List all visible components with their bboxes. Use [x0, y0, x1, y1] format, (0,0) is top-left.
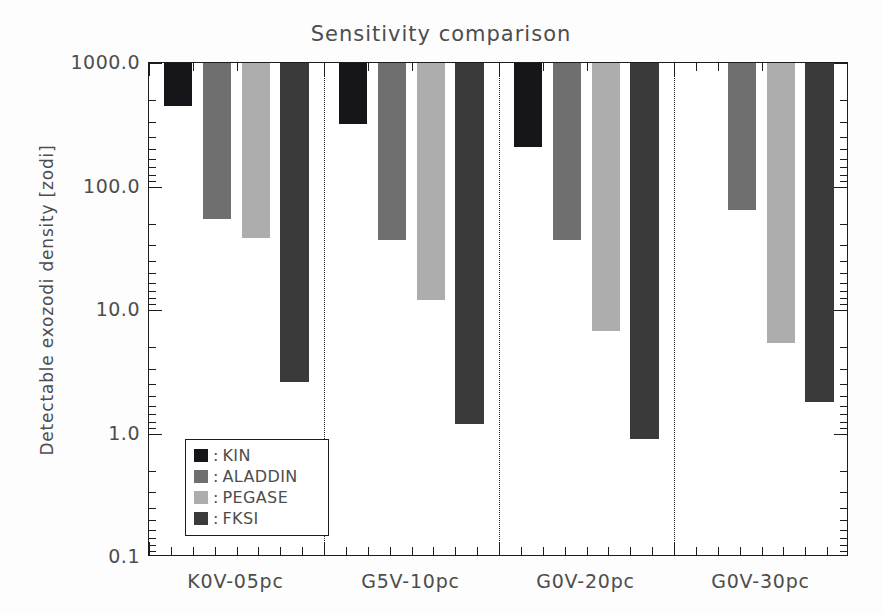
legend-separator: :	[213, 448, 218, 464]
x-axis-tick-minor	[827, 547, 828, 555]
x-axis-tick-minor	[762, 63, 763, 71]
y-axis-tick-minor	[840, 347, 847, 348]
bar	[455, 63, 484, 424]
x-axis-tick-minor	[215, 547, 216, 555]
y-axis-tick-minor	[149, 545, 156, 546]
y-axis-tick-minor	[149, 384, 156, 385]
bar	[805, 63, 834, 402]
x-axis-tick-minor	[521, 547, 522, 555]
x-axis-tick-minor	[805, 547, 806, 555]
bar	[203, 63, 232, 219]
y-axis-tick-minor	[840, 224, 847, 225]
y-axis-tick-minor	[149, 181, 156, 182]
x-axis-tick-minor	[193, 63, 194, 71]
y-axis-tick-minor	[149, 149, 156, 150]
x-axis-tick-major	[324, 542, 325, 555]
x-axis-tick-major	[674, 63, 675, 76]
y-axis-tick-minor	[149, 551, 156, 552]
y-axis-tick-minor	[149, 422, 156, 423]
x-axis-tick-minor	[587, 63, 588, 71]
y-axis-tick-minor	[840, 137, 847, 138]
bar	[592, 63, 621, 331]
x-axis-tick-minor	[543, 63, 544, 71]
x-axis-tick-minor	[696, 547, 697, 555]
y-axis-tick-minor	[149, 304, 156, 305]
y-axis-tick-label: 1.0	[108, 422, 140, 444]
y-axis-tick-minor	[149, 414, 156, 415]
bar	[630, 63, 659, 439]
y-axis-tick-minor	[149, 261, 156, 262]
y-axis-tick-minor	[149, 406, 156, 407]
y-axis-tick-minor	[149, 347, 156, 348]
legend-item: :ALADDIN	[194, 466, 321, 487]
bar	[514, 63, 543, 147]
bar	[553, 63, 582, 240]
y-axis-tick-minor	[840, 122, 847, 123]
x-axis-tick-major	[324, 63, 325, 76]
y-axis-tick-minor	[840, 100, 847, 101]
y-axis-tick-minor	[149, 245, 156, 246]
x-axis-tick-minor	[193, 547, 194, 555]
legend-label: FKSI	[222, 511, 258, 527]
y-axis-tick-major	[834, 63, 847, 64]
y-axis-tick-minor	[840, 298, 847, 299]
y-axis-tick-minor	[840, 545, 847, 546]
y-axis-tick-minor	[149, 396, 156, 397]
bar	[280, 63, 309, 382]
y-axis-tick-minor	[840, 181, 847, 182]
y-axis-tick-minor	[840, 167, 847, 168]
x-axis-tick-minor	[171, 547, 172, 555]
y-axis-tick-minor	[840, 304, 847, 305]
x-axis-tick-major	[499, 63, 500, 76]
x-axis-tick-minor	[412, 63, 413, 71]
legend-label: KIN	[222, 448, 250, 464]
x-axis-tick-minor	[565, 547, 566, 555]
legend-swatch-icon	[194, 491, 208, 504]
y-axis-tick-minor	[149, 538, 156, 539]
legend-swatch-icon	[194, 449, 208, 462]
x-axis-tick-minor	[237, 547, 238, 555]
y-axis-tick-minor	[840, 291, 847, 292]
y-axis-tick-minor	[840, 369, 847, 370]
y-axis-tick-minor	[840, 245, 847, 246]
y-axis-tick-minor	[840, 283, 847, 284]
x-axis-tick-minor	[652, 547, 653, 555]
y-axis-tick-minor	[840, 538, 847, 539]
bar	[417, 63, 446, 300]
y-axis-tick-minor	[840, 159, 847, 160]
y-axis-tick-minor	[840, 175, 847, 176]
x-axis-tick-minor	[543, 547, 544, 555]
y-axis-tick-minor	[840, 149, 847, 150]
y-axis-tick-minor	[840, 428, 847, 429]
x-axis-tick-minor	[630, 547, 631, 555]
x-axis-tick-minor	[762, 547, 763, 555]
bar	[242, 63, 271, 238]
y-axis-tick-major	[834, 187, 847, 188]
group-separator	[499, 63, 500, 555]
chart-legend: :KIN:ALADDIN:PEGASE:FKSI	[185, 439, 329, 536]
x-axis-tick-label: G0V-20pc	[536, 570, 635, 592]
x-axis-tick-minor	[302, 547, 303, 555]
y-axis-tick-label: 1000.0	[71, 51, 140, 73]
group-separator	[674, 63, 675, 555]
x-axis-tick-minor	[368, 63, 369, 71]
y-axis-tick-minor	[149, 167, 156, 168]
x-axis-tick-label: G0V-30pc	[711, 570, 810, 592]
y-axis-tick-minor	[149, 122, 156, 123]
x-axis-tick-minor	[608, 547, 609, 555]
y-axis-tick-minor	[149, 530, 156, 531]
y-axis-tick-minor	[149, 137, 156, 138]
bar	[339, 63, 368, 124]
y-axis-tick-minor	[840, 492, 847, 493]
legend-separator: :	[213, 511, 218, 527]
y-axis-tick-major	[834, 310, 847, 311]
x-axis-tick-minor	[783, 547, 784, 555]
x-axis-tick-minor	[412, 547, 413, 555]
y-axis-tick-major	[149, 310, 162, 311]
y-axis-tick-minor	[840, 471, 847, 472]
x-axis-tick-label: G5V-10pc	[361, 570, 460, 592]
legend-item: :PEGASE	[194, 487, 321, 508]
bar	[164, 63, 193, 106]
chart-title: Sensitivity comparison	[0, 22, 882, 46]
x-axis-tick-minor	[587, 547, 588, 555]
